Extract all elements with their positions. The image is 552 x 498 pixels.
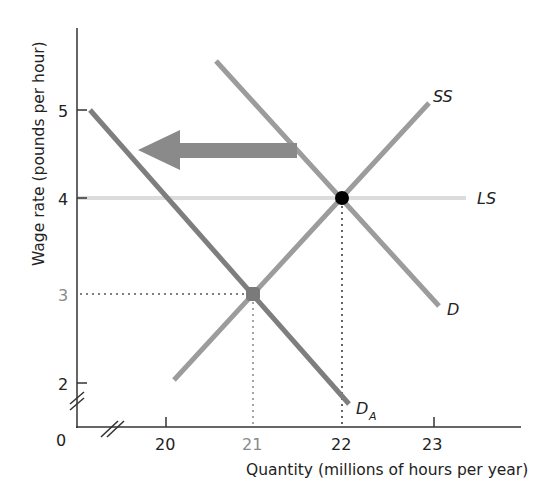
x-axis-break-icon — [101, 421, 124, 437]
x-axis-title: Quantity (millions of hours per year) — [246, 461, 528, 479]
shift-left-arrow-icon — [138, 130, 297, 170]
da-label-subscript: A — [368, 410, 377, 423]
da-label: D — [356, 399, 368, 418]
origin-label: 0 — [56, 431, 66, 450]
x-tick-label-23: 23 — [422, 435, 442, 454]
y-tick-label-2: 2 — [58, 375, 68, 394]
x-tick-label-21: 21 — [242, 435, 262, 454]
ls-label: LS — [477, 189, 496, 208]
equilibrium-point-new — [246, 287, 260, 301]
y-tick-label-4: 4 — [58, 190, 68, 209]
demand-d-line — [216, 61, 439, 306]
equilibrium-point-initial — [335, 191, 349, 205]
ss-label: SS — [433, 87, 453, 106]
d-label: D — [447, 300, 459, 319]
x-tick-label-20: 20 — [155, 435, 175, 454]
y-axis-title: Wage rate (pounds per hour) — [30, 41, 48, 266]
y-tick-label-5: 5 — [58, 102, 68, 121]
labor-market-chart: 5 4 3 2 0 20 21 22 23 Quantity (millions… — [0, 0, 552, 498]
y-tick-label-3: 3 — [58, 286, 68, 305]
x-tick-label-22: 22 — [331, 435, 351, 454]
